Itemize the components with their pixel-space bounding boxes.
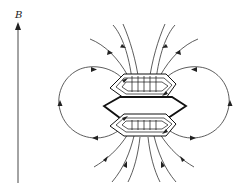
top-field-lines: [90, 24, 198, 82]
arrow-left-icon: [191, 67, 197, 72]
magnetic-field-diagram: B: [0, 0, 243, 192]
b-axis-arrow-icon: [15, 22, 21, 30]
arrow-down-icon: [103, 156, 108, 162]
arrow-down-icon: [162, 44, 168, 48]
arrow-right-icon: [190, 136, 196, 141]
arrow-down-icon: [180, 156, 185, 162]
arrow-up-icon: [228, 100, 233, 106]
upper-coil: [110, 74, 176, 98]
arrow-left-icon: [92, 136, 98, 141]
b-axis: B: [14, 9, 22, 183]
arrow-up-icon: [58, 100, 63, 106]
arrow-down-icon: [120, 44, 126, 48]
arrow-right-icon: [91, 67, 97, 72]
lower-coil: [110, 114, 176, 136]
bottom-field-lines: [94, 134, 194, 182]
b-axis-label: B: [14, 9, 22, 20]
